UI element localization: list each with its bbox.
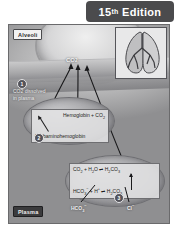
bicarbonate-ion-label: HCO3− <box>71 203 87 213</box>
edition-ordinal-suffix: th <box>111 8 118 15</box>
edition-word: Edition <box>122 6 161 18</box>
edition-number: 15 <box>99 6 112 18</box>
book-cover-page: 15th Edition Alveoli Plasma CO2 1 <box>0 0 176 246</box>
bicarbonate-sub: 3 <box>82 208 84 213</box>
lung-inset-panel <box>115 27 167 79</box>
bicarbonate-sup: − <box>84 203 86 208</box>
edition-banner: 15th Edition <box>86 1 174 22</box>
step-marker-3: 3 <box>114 193 124 203</box>
co2-transport-figure: Alveoli Plasma CO2 1 CO2 dissolved in pl… <box>8 24 170 224</box>
lung-bronchial-tree-icon <box>116 28 166 78</box>
chloride-sup: − <box>132 203 134 208</box>
bicarbonate-text: HCO <box>71 205 82 211</box>
chloride-ion-label: Cl− <box>127 203 134 211</box>
